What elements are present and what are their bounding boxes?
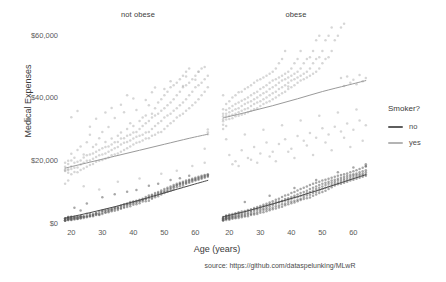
x-axis-ticks: 20304050602030405060 [0, 0, 446, 282]
x-axis-tick-label: 20 [59, 228, 83, 237]
legend-title: Smoker? [388, 104, 446, 113]
x-axis-tick-label: 60 [183, 228, 207, 237]
x-axis-tick-label: 50 [310, 228, 334, 237]
x-axis-tick-label: 40 [279, 228, 303, 237]
legend-item-yes[interactable]: yes [388, 136, 446, 149]
x-axis-tick-label: 30 [248, 228, 272, 237]
chart-root: not obese obese Medical Expenses $0$20,0… [0, 0, 446, 282]
legend-label: no [409, 122, 417, 131]
legend-key-icon [388, 126, 403, 128]
x-axis-tick-label: 30 [90, 228, 114, 237]
legend: Smoker? noyes [388, 104, 446, 152]
legend-label: yes [409, 138, 421, 147]
x-axis-title: Age (years) [62, 244, 372, 254]
x-axis-tick-label: 40 [121, 228, 145, 237]
x-axis-tick-label: 20 [217, 228, 241, 237]
legend-items: noyes [388, 120, 446, 149]
legend-key-icon [388, 142, 403, 144]
x-axis-tick-label: 50 [152, 228, 176, 237]
x-axis-tick-label: 60 [341, 228, 365, 237]
chart-caption: source: https://github.com/dataspelunkin… [120, 262, 440, 269]
legend-item-no[interactable]: no [388, 120, 446, 133]
